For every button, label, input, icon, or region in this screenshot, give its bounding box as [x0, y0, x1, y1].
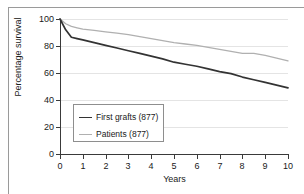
series-line: [60, 19, 288, 61]
series-curves: [0, 0, 304, 194]
legend-label: Patients (877): [96, 130, 149, 139]
legend-swatch: [79, 134, 92, 135]
legend-label: First grafts (877): [96, 113, 158, 122]
legend: First grafts (877)Patients (877): [73, 104, 164, 142]
figure: 020406080100 012345678910 Percentage sur…: [0, 0, 304, 194]
legend-item: Patients (877): [79, 127, 149, 141]
legend-swatch: [79, 117, 92, 118]
legend-item: First grafts (877): [79, 110, 158, 124]
